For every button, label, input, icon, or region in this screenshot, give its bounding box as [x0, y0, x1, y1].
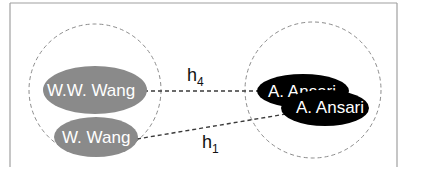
node-ww-wang-label: W.W. Wang: [47, 81, 135, 100]
edge-label-h1-sub: 1: [212, 142, 219, 156]
edge-label-h1: h1: [202, 132, 219, 156]
node-ww-wang: W.W. Wang: [43, 66, 147, 114]
node-a-ansari-2-label: A. Ansari: [296, 98, 364, 117]
edge-label-h1-main: h: [202, 132, 212, 152]
edge-label-h4-main: h: [187, 65, 197, 85]
edge-label-h4-sub: 4: [197, 75, 204, 89]
node-a-ansari-2: A. Ansari: [281, 90, 369, 126]
diagram-canvas: h4 h1 W.W. Wang W. Wang A. Ansari A. Ans…: [0, 0, 422, 169]
edge-h1: [137, 113, 292, 139]
node-w-wang-label: W. Wang: [62, 128, 130, 147]
node-w-wang: W. Wang: [54, 117, 138, 157]
edge-label-h4: h4: [187, 65, 204, 89]
